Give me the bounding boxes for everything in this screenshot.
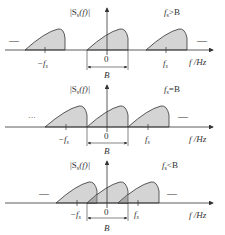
spectrum-label: |Ss(f)|: [70, 7, 90, 18]
fs-label: fs: [134, 209, 140, 220]
condition-label: fs=B: [164, 84, 180, 95]
right-ellipsis: —: [166, 188, 178, 199]
origin-label: 0: [104, 131, 109, 141]
panel-fs-less-than-B: — — |Ss(f)| fs<B 0 −fs fs B f /Hz: [5, 160, 213, 233]
frequency-axis-label: f /Hz: [189, 134, 207, 144]
bandwidth-label: B: [104, 70, 110, 80]
neg-fs-label: −fs: [58, 134, 70, 145]
panel-fs-equals-B: ··· — |Ss(f)| fs=B 0 −fs fs B f /Hz: [5, 84, 213, 156]
spectrum-lobe-center: [87, 29, 128, 50]
sampling-spectrum-diagram: — — |Ss(f)| fs>B 0 −fs fs B f /Hz ··· —: [0, 0, 225, 235]
origin-label: 0: [104, 207, 109, 217]
left-ellipsis: ···: [28, 113, 36, 122]
left-ellipsis: —: [8, 35, 20, 46]
condition-label: fs>B: [164, 7, 180, 18]
bandwidth-label: B: [104, 146, 110, 156]
spectrum-lobe-center: [87, 106, 128, 127]
origin-label: 0: [104, 54, 109, 64]
right-ellipsis: —: [196, 35, 208, 46]
spectrum-label: |Ss(f)|: [70, 160, 90, 171]
spectrum-lobe-left: [25, 29, 65, 50]
right-ellipsis: —: [177, 111, 189, 122]
condition-label: fs<B: [162, 160, 178, 171]
panel-fs-greater-than-B: — — |Ss(f)| fs>B 0 −fs fs B f /Hz: [5, 7, 213, 80]
spectrum-lobe-right: [128, 106, 169, 127]
neg-fs-label: −fs: [70, 209, 82, 220]
bandwidth-label: B: [104, 223, 110, 233]
spectrum-label: |Ss(f)|: [70, 84, 90, 95]
fs-label: fs: [163, 58, 169, 69]
frequency-axis-label: f /Hz: [189, 57, 207, 67]
spectrum-lobe-left: [45, 106, 87, 127]
neg-fs-label: −fs: [37, 58, 49, 69]
frequency-axis-label: f /Hz: [189, 210, 207, 220]
spectrum-lobe-right: [146, 29, 187, 50]
left-ellipsis: —: [38, 188, 50, 199]
fs-label: fs: [145, 134, 151, 145]
